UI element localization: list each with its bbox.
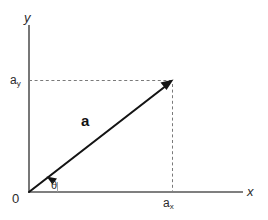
ax-subscript-text: x [170,202,174,211]
x-axis-label: x [247,185,254,198]
ax-component-label: ax [163,197,174,211]
vector-a-label: a [81,113,89,128]
diagram-canvas [0,0,268,220]
ay-subscript-text: y [17,79,21,88]
vector-a-shaft [29,84,169,193]
origin-label: 0 [12,192,19,205]
ay-component-label: ay [10,74,21,88]
ax-base-text: a [163,196,170,210]
vector-diagram: y x ay ax 0 a θ [0,0,268,220]
y-axis-label: y [24,11,31,24]
ay-base-text: a [10,73,17,87]
theta-angle-label: θ [51,180,57,191]
